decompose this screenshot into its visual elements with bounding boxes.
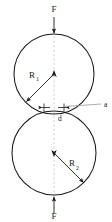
- contact-width-label: a: [104, 100, 108, 109]
- radius-upper-label-text: R: [29, 70, 35, 80]
- force-bottom-label: F: [51, 211, 56, 221]
- radius-upper-label: R 1: [29, 70, 39, 82]
- contact-mechanics-diagram: F F R 1 R 2 a d: [0, 0, 112, 222]
- radius-upper-label-sub: 1: [36, 76, 39, 82]
- force-top-label: F: [51, 4, 56, 14]
- figure-container: F F R 1 R 2 a d: [0, 0, 112, 222]
- radius-lower-label-text: R: [69, 158, 75, 168]
- contact-leader-line: [65, 104, 101, 107]
- approach-distance-label: d: [58, 114, 62, 123]
- radius-lower-label-sub: 2: [76, 165, 79, 171]
